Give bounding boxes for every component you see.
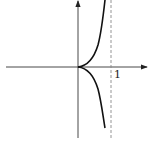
curve-upper-branch bbox=[78, 0, 105, 67]
graph: 1 bbox=[0, 0, 154, 142]
curve-lower-branch bbox=[78, 67, 105, 128]
asymptote-label: 1 bbox=[114, 68, 121, 81]
